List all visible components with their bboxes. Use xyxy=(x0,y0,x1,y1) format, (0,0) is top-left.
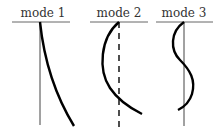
panel-mode-2: mode 2 xyxy=(90,6,148,127)
mode-2-curve xyxy=(103,22,142,114)
panel-mode-1: mode 1 xyxy=(12,6,74,126)
panel-mode-3: mode 3 xyxy=(156,6,213,126)
mode-3-curve xyxy=(173,22,193,110)
mode-2-label: mode 2 xyxy=(97,6,142,20)
mode-3-label: mode 3 xyxy=(162,6,207,20)
mode-shapes-diagram: mode 1 mode 2 mode 3 xyxy=(0,0,222,131)
mode-1-label: mode 1 xyxy=(21,6,66,20)
mode-1-curve xyxy=(40,22,74,126)
